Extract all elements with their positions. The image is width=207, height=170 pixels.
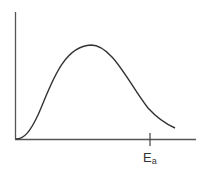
energy-distribution-diagram: Ea xyxy=(0,0,207,170)
ea-label: Ea xyxy=(143,150,157,166)
distribution-curve xyxy=(16,45,175,139)
